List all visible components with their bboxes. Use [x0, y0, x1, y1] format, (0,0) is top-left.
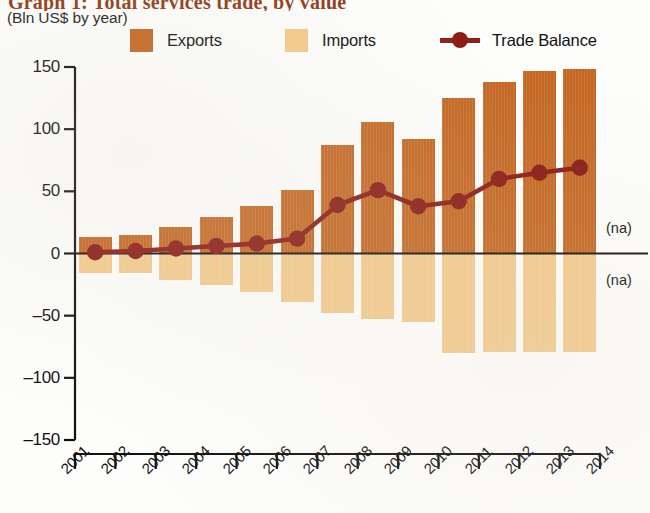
trade-balance-point — [127, 243, 143, 259]
trade-balance-point — [491, 171, 507, 187]
trade-balance-point — [370, 182, 386, 198]
trade-balance-point — [410, 198, 426, 214]
chart-overlay-svg — [0, 0, 650, 513]
trade-balance-point — [329, 197, 345, 213]
trade-balance-point — [208, 238, 224, 254]
trade-balance-point — [289, 230, 305, 246]
trade-balance-point — [572, 160, 588, 176]
trade-balance-point — [249, 235, 265, 251]
trade-balance-point — [531, 164, 547, 180]
trade-balance-point — [450, 193, 466, 209]
trade-balance-point — [87, 244, 103, 260]
trade-balance-point — [168, 240, 184, 256]
